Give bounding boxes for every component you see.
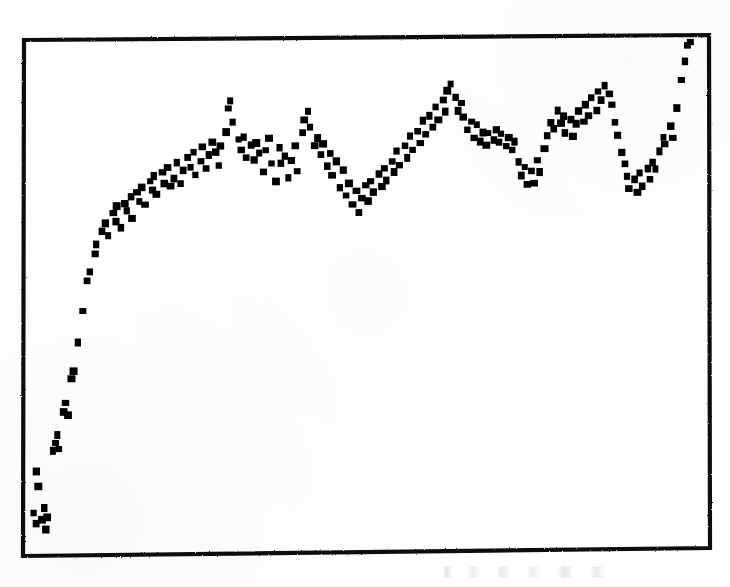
data-point — [52, 440, 59, 446]
data-point — [534, 157, 541, 163]
data-point — [174, 159, 180, 167]
data-point — [536, 168, 543, 176]
data-point — [511, 138, 517, 146]
data-point — [84, 278, 91, 285]
data-point — [238, 147, 245, 154]
data-point — [124, 207, 130, 214]
data-point — [118, 224, 124, 232]
data-point — [356, 209, 363, 216]
data-point — [393, 148, 399, 155]
data-point — [528, 168, 535, 174]
data-point — [33, 468, 40, 476]
data-point — [54, 431, 60, 439]
data-point — [414, 128, 421, 135]
data-point — [56, 446, 62, 452]
data-point — [79, 308, 86, 314]
data-point — [595, 88, 601, 94]
data-point — [426, 112, 432, 120]
data-point — [50, 447, 56, 455]
data-point — [364, 197, 372, 205]
data-point — [299, 129, 306, 136]
data-point — [503, 143, 510, 149]
data-point — [573, 120, 580, 128]
data-point — [252, 139, 260, 147]
data-point — [404, 154, 410, 162]
data-point — [337, 184, 343, 191]
data-point — [30, 510, 36, 517]
data-point — [593, 107, 600, 114]
data-point — [409, 147, 416, 153]
data-point — [575, 107, 582, 115]
data-point — [327, 150, 333, 157]
data-point — [105, 232, 111, 239]
data-point — [276, 144, 282, 151]
data-point — [530, 180, 538, 187]
data-point — [443, 87, 451, 95]
data-point — [420, 117, 426, 125]
data-point-group — [30, 39, 693, 534]
data-point — [673, 104, 680, 112]
data-point — [208, 139, 216, 146]
data-point — [324, 162, 331, 170]
data-point — [171, 175, 178, 183]
data-point — [429, 124, 436, 131]
data-point — [285, 174, 291, 181]
plot-canvas — [0, 0, 730, 587]
data-point — [64, 411, 72, 419]
data-point — [622, 161, 629, 168]
data-point — [509, 147, 515, 153]
scatter-plot-figure — [0, 0, 730, 587]
data-point — [227, 97, 233, 104]
data-point — [340, 166, 347, 173]
data-point — [669, 135, 677, 141]
data-point — [389, 158, 396, 164]
data-point — [300, 116, 308, 123]
data-point — [631, 176, 638, 184]
data-point — [661, 134, 667, 141]
data-point — [656, 147, 662, 155]
data-point — [682, 58, 688, 66]
data-point — [190, 149, 196, 156]
data-point — [402, 143, 408, 150]
data-point — [62, 400, 69, 406]
data-point — [562, 129, 568, 137]
data-point — [225, 105, 232, 111]
data-point — [99, 228, 106, 235]
data-point — [396, 162, 403, 168]
data-point — [121, 200, 129, 207]
data-point — [652, 165, 658, 172]
data-point — [557, 119, 565, 126]
data-point — [550, 125, 557, 132]
data-point — [459, 114, 467, 121]
data-point — [560, 112, 567, 120]
data-point — [555, 107, 561, 115]
data-point — [612, 119, 619, 126]
data-point — [305, 108, 311, 115]
data-point — [272, 178, 280, 186]
data-point — [440, 97, 447, 104]
data-point — [544, 132, 551, 139]
data-point — [241, 134, 247, 141]
data-point — [353, 188, 361, 194]
data-point — [624, 173, 630, 180]
data-point — [42, 526, 49, 534]
data-point — [102, 219, 109, 227]
data-point — [422, 131, 429, 137]
plot-frame — [23, 35, 710, 556]
data-point — [383, 177, 389, 185]
data-point — [278, 160, 285, 167]
data-point — [485, 130, 491, 136]
data-point — [328, 172, 336, 179]
data-point — [243, 154, 250, 160]
data-point — [522, 164, 528, 170]
data-point — [113, 202, 121, 210]
data-point — [407, 132, 413, 139]
data-point — [70, 367, 78, 375]
data-point — [516, 158, 522, 166]
data-point — [470, 135, 477, 141]
data-point — [482, 142, 490, 149]
data-point — [319, 140, 327, 147]
data-point — [349, 201, 357, 207]
data-point — [260, 169, 267, 176]
data-point — [43, 513, 51, 521]
